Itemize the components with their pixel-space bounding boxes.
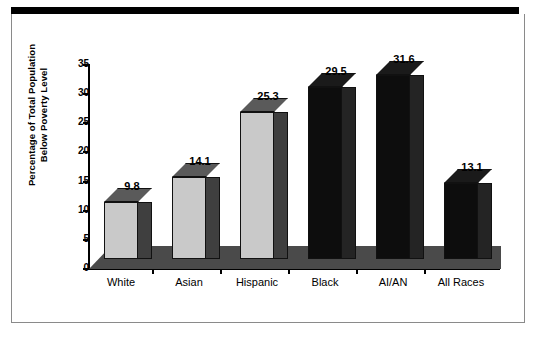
x-tick-mark-5 (424, 269, 426, 274)
bar-value-all-races: 13.1 (449, 162, 495, 173)
y-tick-20: 20 (50, 146, 89, 156)
bar-asian[interactable] (172, 177, 206, 259)
y-tick-15: 15 (50, 176, 89, 186)
x-tick-mark-1 (152, 269, 154, 274)
bar-all-races-side-face (478, 183, 492, 259)
y-axis-label-line-2: Below Poverty Level (38, 15, 50, 215)
bar-hispanic-side-face (274, 112, 288, 259)
bar-hispanic-front-face (240, 112, 274, 259)
bar-asian-front-face (172, 177, 206, 259)
chart-figure: Percentage of Total Population Below Pov… (0, 0, 536, 338)
bar-aian-side-face (410, 75, 424, 259)
bar-aian-front-face (376, 75, 410, 259)
bar-aian[interactable] (376, 75, 410, 259)
bar-black-front-face (308, 87, 342, 259)
y-axis-label-line-1: Percentage of Total Population (26, 15, 38, 215)
bar-all-races-front-face (444, 183, 478, 259)
plot-area: Percentage of Total Population Below Pov… (0, 0, 536, 338)
x-tick-mark-3 (288, 269, 290, 274)
bar-value-aian: 31.6 (381, 54, 427, 65)
bar-black-side-face (342, 87, 356, 259)
bar-value-white: 9.8 (109, 181, 155, 192)
y-tick-10: 10 (50, 205, 89, 215)
bar-black[interactable] (308, 87, 342, 259)
x-tick-mark-2 (220, 269, 222, 274)
bar-all-races[interactable] (444, 183, 478, 259)
x-category-all-races: All Races (421, 276, 501, 288)
y-tick-5: 5 (50, 234, 89, 244)
x-tick-mark-4 (356, 269, 358, 274)
bar-white[interactable] (104, 202, 138, 259)
y-tick-35: 35 (50, 59, 89, 69)
bar-white-side-face (138, 202, 152, 259)
y-tick-30: 30 (50, 88, 89, 98)
bar-value-hispanic: 25.3 (245, 91, 291, 102)
bar-white-front-face (104, 202, 138, 259)
bar-value-asian: 14.1 (177, 156, 223, 167)
bar-asian-side-face (206, 177, 220, 259)
bar-hispanic[interactable] (240, 112, 274, 259)
y-tick-0: 0 (50, 263, 89, 273)
y-axis-label: Percentage of Total Population Below Pov… (26, 15, 50, 215)
y-tick-25: 25 (50, 117, 89, 127)
bar-value-black: 29.5 (313, 66, 359, 77)
